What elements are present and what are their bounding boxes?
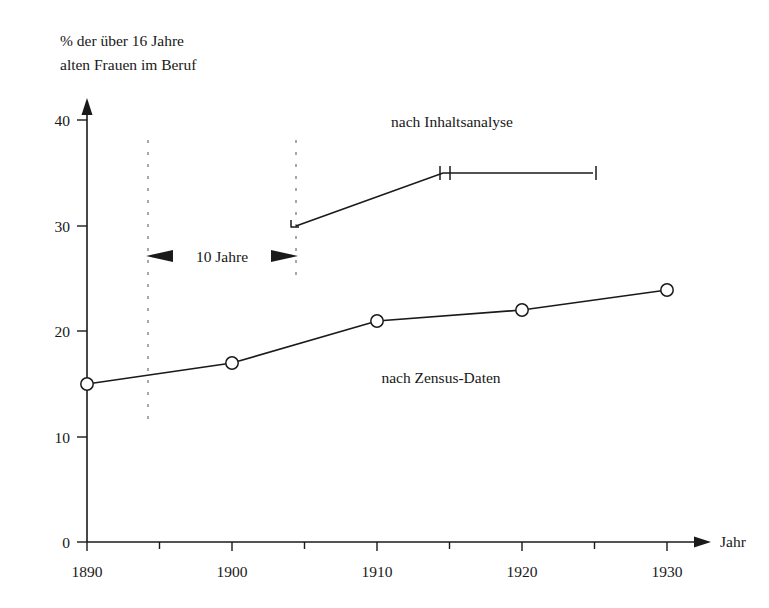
y-axis-ticks: 40 30 20 10 0: [55, 112, 88, 551]
series-zensus-marker-1920: [516, 304, 528, 316]
y-axis-arrowhead: [82, 98, 93, 115]
chart-figure: % der über 16 Jahre alten Frauen im Beru…: [0, 0, 769, 608]
y-tick-label-30: 30: [55, 218, 71, 235]
y-axis-title-line1: % der über 16 Jahre: [60, 32, 184, 49]
span-arrow-right-head: [271, 250, 298, 262]
series-zensus-marker-1900: [226, 357, 238, 369]
x-tick-label-1910: 1910: [362, 563, 393, 580]
x-tick-label-1900: 1900: [217, 563, 248, 580]
x-tick-label-1930: 1930: [652, 563, 683, 580]
series-zensus: [81, 284, 673, 390]
x-axis-title: Jahr: [720, 533, 747, 550]
x-axis: [87, 537, 711, 548]
series-zensus-line: [87, 290, 667, 384]
span-annotation-label: 10 Jahre: [196, 248, 248, 265]
series-inhaltsanalyse-label: nach Inhaltsanalyse: [391, 113, 513, 130]
y-tick-label-40: 40: [55, 112, 71, 129]
y-tick-label-10: 10: [55, 429, 71, 446]
series-zensus-marker-1910: [371, 315, 383, 327]
y-tick-label-0: 0: [62, 534, 70, 551]
series-zensus-marker-1930: [661, 284, 673, 296]
x-axis-arrowhead: [694, 537, 711, 548]
x-tick-label-1890: 1890: [72, 563, 103, 580]
series-inhaltsanalyse: [291, 166, 596, 228]
y-tick-label-20: 20: [55, 323, 71, 340]
series-zensus-marker-1890: [81, 378, 93, 390]
span-arrow-left-head: [146, 250, 173, 262]
y-axis: [82, 98, 93, 542]
series-zensus-label: nach Zensus-Daten: [381, 369, 500, 386]
x-axis-ticks: 1890 1900 1910 1920 1930: [72, 542, 683, 580]
y-axis-title-line2: alten Frauen im Beruf: [60, 56, 197, 73]
series-inhaltsanalyse-line: [296, 173, 593, 226]
x-tick-label-1920: 1920: [507, 563, 538, 580]
span-annotation-10-jahre: 10 Jahre: [146, 248, 298, 265]
